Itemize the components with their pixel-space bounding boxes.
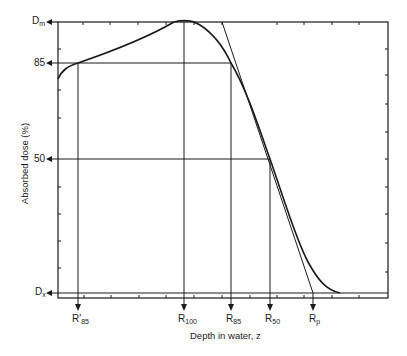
x-axis-title: Depth in water, z bbox=[190, 330, 261, 341]
y-axis-title: Absorbed dose (%) bbox=[19, 121, 30, 207]
y-tick-50: 50 bbox=[34, 154, 45, 164]
chart-canvas bbox=[0, 0, 407, 356]
y-tick-dx: Dx bbox=[35, 287, 46, 298]
x-label-r50: R50 bbox=[265, 314, 280, 325]
x-label-r100-sub: 100 bbox=[185, 318, 197, 325]
x-label-r85-prime: R'85 bbox=[72, 314, 89, 325]
y-tick-dx-sub: x bbox=[42, 291, 46, 298]
y-tick-dm: Dm bbox=[32, 16, 45, 27]
y-tick-85: 85 bbox=[34, 58, 45, 68]
arrow-down-icon bbox=[228, 304, 234, 311]
x-label-r85-prime-main: R' bbox=[72, 313, 81, 324]
arrow-down-icon bbox=[181, 304, 187, 311]
x-label-r50-sub: 50 bbox=[272, 318, 280, 325]
x-label-r100: R100 bbox=[178, 314, 197, 325]
arrow-down-icon bbox=[75, 304, 81, 311]
x-label-r85: R85 bbox=[226, 314, 241, 325]
depth-dose-curve bbox=[58, 21, 340, 293]
arrow-left-icon bbox=[46, 156, 52, 162]
x-label-r85-sub: 85 bbox=[233, 318, 241, 325]
arrow-left-icon bbox=[46, 290, 52, 296]
arrow-down-icon bbox=[267, 304, 273, 311]
arrow-left-icon bbox=[46, 60, 52, 66]
tangent-line bbox=[222, 22, 313, 293]
arrow-down-icon bbox=[310, 304, 316, 311]
x-label-rp-sub: p bbox=[316, 318, 320, 325]
x-label-r85-prime-sub: 85 bbox=[81, 318, 89, 325]
y-tick-dm-sub: m bbox=[39, 20, 45, 27]
x-label-rp: Rp bbox=[309, 314, 320, 325]
arrow-left-icon bbox=[46, 19, 52, 25]
